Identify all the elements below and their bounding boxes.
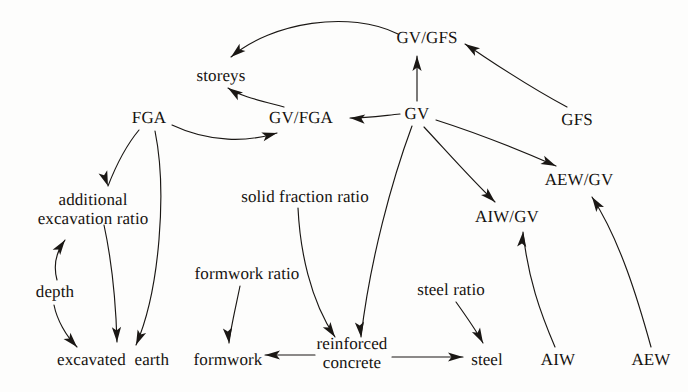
node-additional_exc[interactable]: additionalexcavation ratio: [38, 190, 149, 228]
node-reinforced_conc[interactable]: reinforcedconcrete: [317, 334, 388, 372]
node-aiw_gv[interactable]: AIW/GV: [475, 208, 539, 226]
edge-gv_gfs-to-storeys: [228, 21, 398, 60]
node-label-line: reinforced: [317, 334, 388, 353]
node-label-line: GV/FGA: [269, 109, 333, 127]
edge-gv_fga-to-storeys: [225, 84, 284, 107]
arrow-head-icon: [228, 44, 245, 61]
node-steel[interactable]: steel: [471, 351, 503, 369]
node-fga[interactable]: FGA: [132, 109, 166, 127]
edge-gv-to-aiw_gv: [424, 127, 498, 205]
arrow-head-icon: [462, 40, 480, 56]
edge-gv-to-gv_fga: [350, 113, 400, 123]
edge-formwork_ratio-to-formwork: [223, 286, 240, 343]
node-label-line: concrete: [317, 353, 388, 372]
arrow-head-icon: [540, 156, 557, 171]
arrow-head-icon: [588, 194, 604, 212]
node-label-line: AIW/GV: [475, 208, 539, 226]
arrow-head-icon: [53, 237, 69, 255]
node-label-line: excavated earth: [57, 351, 169, 369]
edge-aew-to-aew_gv: [588, 194, 651, 347]
node-gfs[interactable]: GFS: [561, 111, 593, 129]
edge-additional_exc-to-excavated_earth: [104, 225, 122, 342]
edge-reinforced_conc-to-formwork: [265, 350, 315, 359]
diagram-canvas: storeysGV/GFSFGAGV/FGAGVGFSAEW/GVAIW/GVa…: [0, 0, 688, 392]
edge-gv-to-aew_gv: [436, 120, 558, 170]
node-aew_gv[interactable]: AEW/GV: [545, 171, 614, 189]
edge-depth-to-additional_exc: [53, 237, 69, 280]
arrow-head-icon: [472, 328, 487, 346]
edge-fga-to-excavated_earth: [132, 131, 161, 347]
node-label-line: GFS: [561, 111, 593, 129]
arrow-head-icon: [261, 129, 278, 142]
node-label-line: depth: [36, 283, 74, 301]
node-aiw[interactable]: AIW: [541, 351, 575, 369]
node-label-line: FGA: [132, 109, 166, 127]
node-formwork_ratio[interactable]: formwork ratio: [195, 265, 300, 283]
node-label-line: formwork: [194, 351, 263, 369]
node-label-line: AEW: [631, 351, 670, 369]
arrow-head-icon: [517, 232, 527, 248]
node-gv_gfs[interactable]: GV/GFS: [396, 29, 457, 47]
node-label-line: excavation ratio: [38, 209, 149, 228]
edge-gfs-to-gv_gfs: [462, 40, 567, 107]
node-depth[interactable]: depth: [36, 283, 74, 301]
edge-steel_ratio-to-steel: [456, 302, 487, 345]
node-aew[interactable]: AEW: [631, 351, 670, 369]
arrow-head-icon: [132, 329, 146, 346]
node-label-line: GV: [405, 105, 430, 123]
node-label-line: steel: [471, 351, 503, 369]
node-gv_fga[interactable]: GV/FGA: [269, 109, 333, 127]
node-label-line: additional: [38, 190, 149, 209]
edge-fga-to-gv_fga: [172, 125, 278, 141]
node-label-line: steel ratio: [417, 281, 485, 299]
node-label-line: AIW: [541, 351, 575, 369]
edge-depth-to-excavated_earth: [54, 305, 80, 350]
edge-reinforced_conc-to-steel: [392, 352, 463, 361]
node-formwork[interactable]: formwork: [194, 351, 263, 369]
node-label-line: storeys: [197, 67, 246, 85]
edge-gv-to-reinforced_conc: [355, 126, 412, 337]
node-label-line: AEW/GV: [545, 171, 614, 189]
edge-aiw-to-aiw_gv: [517, 232, 555, 347]
edge-gv-to-gv_gfs: [412, 56, 421, 101]
edge-solid_fraction-to-reinforced_conc: [298, 208, 339, 340]
arrow-head-icon: [350, 113, 366, 123]
node-label-line: formwork ratio: [195, 265, 300, 283]
node-gv[interactable]: GV: [405, 105, 430, 123]
node-steel_ratio[interactable]: steel ratio: [417, 281, 485, 299]
arrow-head-icon: [223, 328, 234, 344]
node-solid_fraction[interactable]: solid fraction ratio: [241, 188, 369, 206]
node-label-line: GV/GFS: [396, 29, 457, 47]
node-excavated_earth[interactable]: excavated earth: [57, 351, 169, 369]
edge-fga-to-additional_exc: [99, 130, 139, 188]
node-storeys[interactable]: storeys: [197, 67, 246, 85]
node-label-line: solid fraction ratio: [241, 188, 369, 206]
arrow-head-icon: [225, 84, 243, 100]
arrow-head-icon: [64, 333, 81, 350]
